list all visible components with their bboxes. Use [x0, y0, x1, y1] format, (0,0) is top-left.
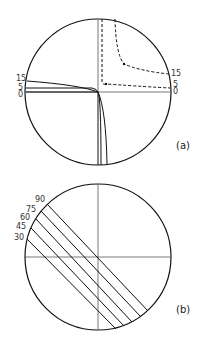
panel-b-caption: (b): [176, 304, 190, 315]
panel-b-line-60: [36, 219, 132, 322]
panel-b-label-60: 60: [20, 213, 30, 222]
panel-a-dashed-15: [115, 19, 169, 74]
panel-b-line-45: [31, 228, 124, 326]
figure: 15 5 0 15 5 0 (a) 90 75 60 45 30 (b): [0, 0, 205, 344]
panel-a-dot-15: [123, 63, 125, 65]
panel-b-line-30: [27, 239, 116, 329]
panel-a-left-label-0: 0: [18, 90, 23, 99]
panel-a-solid-15: [27, 81, 98, 92]
panel-a: 15 5 0 15 5 0 (a): [16, 19, 190, 165]
panel-a-right-label-15: 15: [171, 69, 181, 78]
panel-a-left-label-15: 15: [16, 74, 26, 83]
panel-b-label-45: 45: [16, 222, 26, 231]
panel-b-label-30: 30: [14, 233, 24, 242]
panel-a-dot-5: [105, 83, 107, 85]
panel-b-line-75: [41, 211, 141, 317]
panel-b-line-90: [47, 204, 148, 311]
panel-b-label-90: 90: [35, 195, 45, 204]
panel-b: 90 75 60 45 30 (b): [14, 184, 190, 330]
panel-a-right-label-0: 0: [173, 87, 178, 96]
panel-a-caption: (a): [176, 140, 190, 151]
